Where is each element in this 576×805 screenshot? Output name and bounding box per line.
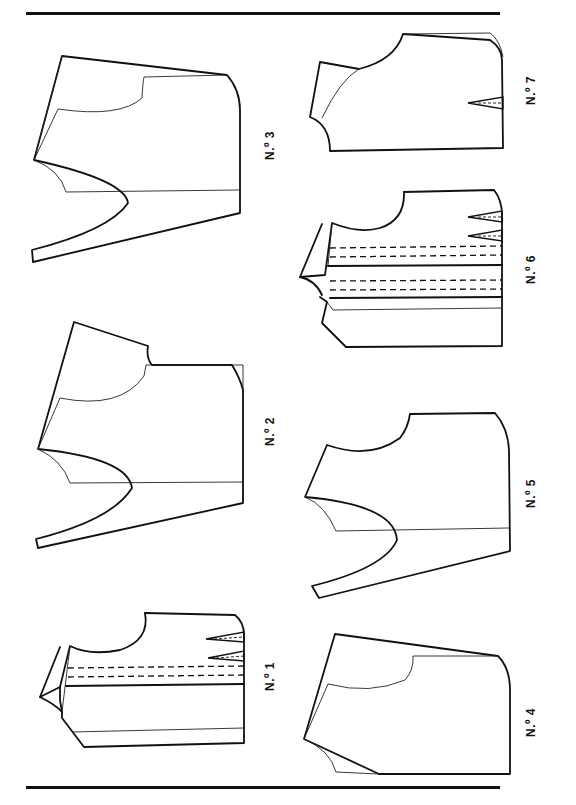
pattern-figure-4 <box>304 634 510 774</box>
pattern-figure-7 <box>310 33 503 151</box>
figure-label-6: N.º 6 <box>524 255 538 284</box>
pattern-figure-6 <box>300 190 502 347</box>
pattern-sheet <box>0 0 576 805</box>
pattern-figure-3 <box>32 56 240 262</box>
figure-label-7: N.º 7 <box>524 76 538 105</box>
figure-label-1: N.º 1 <box>263 662 277 691</box>
figure-label-3: N.º 3 <box>263 131 277 160</box>
pattern-figure-2 <box>36 322 243 548</box>
figure-label-4: N.º 4 <box>524 708 538 737</box>
pattern-figure-1 <box>40 613 244 747</box>
figure-label-2: N.º 2 <box>263 417 277 446</box>
figure-label-5: N.º 5 <box>524 479 538 508</box>
pattern-figure-5 <box>305 413 510 598</box>
